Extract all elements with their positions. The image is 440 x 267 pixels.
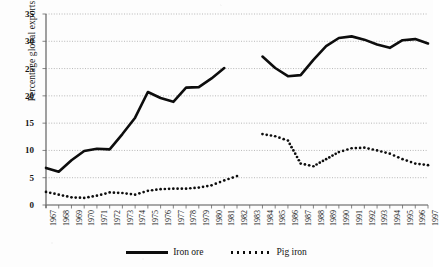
data-dot-pig-iron — [100, 193, 103, 196]
data-dot-pig-iron — [231, 176, 234, 179]
data-dot-pig-iron — [371, 148, 374, 151]
data-dot-pig-iron — [388, 152, 391, 155]
data-dot-pig-iron — [261, 133, 264, 136]
data-dot-pig-iron — [308, 164, 311, 167]
data-dot-pig-iron — [130, 193, 133, 196]
data-dot-pig-iron — [292, 149, 295, 152]
data-dot-pig-iron — [350, 147, 353, 150]
data-dot-pig-iron — [91, 195, 94, 198]
data-dot-pig-iron — [328, 156, 331, 159]
data-dot-pig-iron — [367, 147, 370, 150]
data-dot-pig-iron — [363, 146, 366, 149]
data-dot-pig-iron — [296, 156, 299, 159]
data-dot-pig-iron — [147, 189, 150, 192]
data-dot-pig-iron — [185, 187, 188, 190]
data-dot-pig-iron — [62, 194, 65, 197]
data-dot-pig-iron — [338, 151, 341, 154]
data-dot-pig-iron — [288, 143, 291, 146]
data-dot-pig-iron — [334, 152, 337, 155]
data-dot-pig-iron — [176, 187, 179, 190]
data-dot-pig-iron — [121, 192, 124, 195]
data-dot-pig-iron — [401, 158, 404, 161]
data-dot-pig-iron — [163, 188, 166, 191]
legend-entry-pig-iron: Pig iron — [229, 247, 306, 257]
data-dot-pig-iron — [57, 193, 60, 196]
data-dot-pig-iron — [142, 191, 145, 194]
data-dot-pig-iron — [206, 185, 209, 188]
data-dot-pig-iron — [113, 191, 116, 194]
data-dot-pig-iron — [414, 162, 417, 165]
data-dot-pig-iron — [155, 188, 158, 191]
data-dot-pig-iron — [405, 159, 408, 162]
data-dot-pig-iron — [359, 147, 362, 150]
data-dot-pig-iron — [66, 195, 69, 198]
data-dot-pig-iron — [325, 158, 328, 161]
data-dot-pig-iron — [315, 163, 318, 166]
data-dot-pig-iron — [168, 187, 171, 190]
data-dot-pig-iron — [298, 159, 301, 162]
data-dot-pig-iron — [397, 156, 400, 159]
data-dot-pig-iron — [125, 192, 128, 195]
data-dot-pig-iron — [418, 163, 421, 166]
data-dot-pig-iron — [108, 191, 111, 194]
data-dot-pig-iron — [287, 139, 290, 142]
solid-line-swatch-icon — [126, 251, 168, 254]
data-dot-pig-iron — [384, 151, 387, 154]
data-dot-pig-iron — [322, 160, 325, 163]
data-dot-pig-iron — [427, 164, 430, 167]
data-dot-pig-iron — [331, 154, 334, 157]
data-dot-pig-iron — [312, 165, 315, 168]
legend-entry-iron-ore: Iron ore — [126, 247, 203, 257]
data-dot-pig-iron — [227, 178, 230, 181]
data-dot-pig-iron — [45, 191, 48, 194]
data-dot-pig-iron — [49, 191, 52, 194]
data-dot-pig-iron — [299, 162, 302, 165]
data-dot-pig-iron — [223, 179, 226, 182]
data-dot-pig-iron — [274, 135, 277, 138]
dotted-line-swatch-icon — [229, 251, 271, 254]
data-dot-pig-iron — [70, 196, 73, 199]
data-dot-pig-iron — [214, 182, 217, 185]
data-dot-pig-iron — [138, 192, 141, 195]
data-dot-pig-iron — [410, 161, 413, 164]
data-dot-pig-iron — [159, 188, 162, 191]
data-dot-pig-iron — [354, 147, 357, 150]
data-dot-pig-iron — [193, 187, 196, 190]
data-dot-pig-iron — [189, 187, 192, 190]
data-dot-pig-iron — [53, 192, 56, 195]
data-dot-pig-iron — [304, 163, 307, 166]
data-dot-pig-iron — [96, 194, 99, 197]
data-dot-pig-iron — [393, 154, 396, 157]
data-dot-pig-iron — [265, 133, 268, 136]
legend-label-pig-iron: Pig iron — [276, 247, 306, 257]
data-dot-pig-iron — [346, 148, 349, 151]
data-dot-pig-iron — [134, 193, 137, 196]
data-dot-pig-iron — [294, 152, 297, 155]
data-dot-pig-iron — [282, 138, 285, 141]
data-dot-pig-iron — [202, 185, 205, 188]
data-dot-pig-iron — [87, 196, 90, 199]
data-line-iron-ore — [46, 68, 224, 172]
data-dot-pig-iron — [376, 149, 379, 152]
data-dot-pig-iron — [210, 184, 213, 187]
data-dot-pig-iron — [219, 181, 222, 184]
data-dot-pig-iron — [197, 186, 200, 189]
chart-legend: Iron ore Pig iron — [0, 247, 433, 257]
data-dot-pig-iron — [151, 189, 154, 192]
data-dot-pig-iron — [270, 134, 273, 137]
data-dot-pig-iron — [236, 175, 239, 178]
data-dot-pig-iron — [172, 187, 175, 190]
data-dot-pig-iron — [422, 163, 425, 166]
data-dot-pig-iron — [342, 149, 345, 152]
data-dot-pig-iron — [74, 196, 77, 199]
data-dot-pig-iron — [278, 136, 281, 139]
data-dot-pig-iron — [380, 150, 383, 153]
data-dot-pig-iron — [104, 192, 107, 195]
data-dot-pig-iron — [180, 187, 183, 190]
legend-label-iron-ore: Iron ore — [173, 247, 203, 257]
data-dot-pig-iron — [290, 146, 293, 149]
data-dot-pig-iron — [117, 191, 120, 194]
data-dot-pig-iron — [83, 197, 86, 200]
